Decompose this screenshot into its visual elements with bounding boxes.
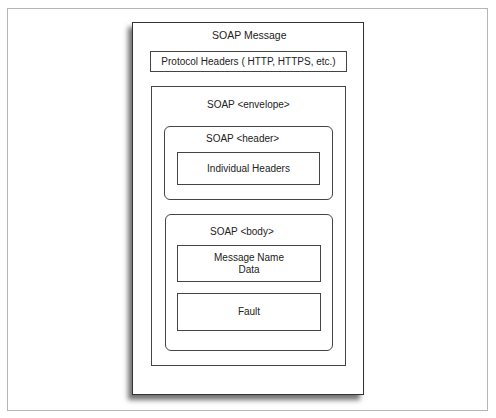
individual-headers-label: Individual Headers bbox=[207, 163, 290, 175]
soap-header-label: SOAP <header> bbox=[206, 133, 279, 144]
protocol-headers-box: Protocol Headers ( HTTP, HTTPS, etc.) bbox=[150, 51, 347, 72]
fault-box: Fault bbox=[177, 293, 321, 331]
protocol-headers-label: Protocol Headers ( HTTP, HTTPS, etc.) bbox=[161, 56, 335, 68]
message-name-data-box: Message Name Data bbox=[177, 245, 321, 282]
data-label: Data bbox=[238, 264, 259, 276]
individual-headers-box: Individual Headers bbox=[177, 152, 320, 185]
soap-message-title: SOAP Message bbox=[212, 29, 287, 41]
message-name-label: Message Name bbox=[214, 252, 284, 264]
fault-label: Fault bbox=[238, 306, 260, 318]
soap-body-label: SOAP <body> bbox=[210, 226, 274, 237]
soap-envelope-label: SOAP <envelope> bbox=[207, 99, 290, 110]
